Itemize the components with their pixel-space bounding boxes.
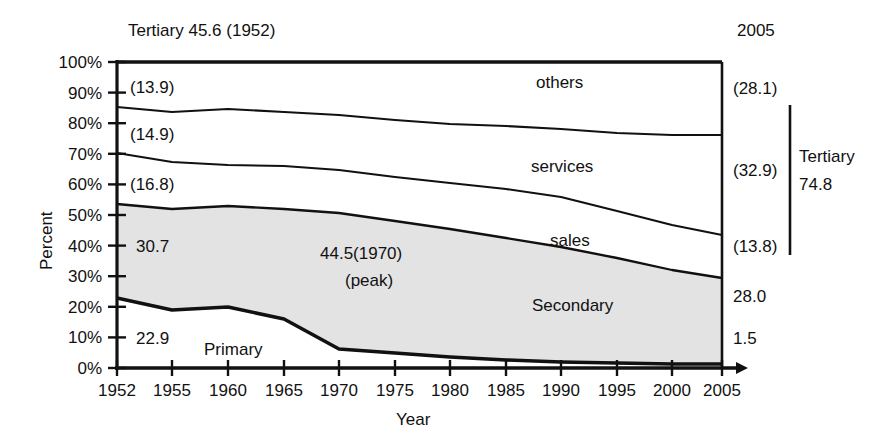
tertiary-bracket-label-name: Tertiary bbox=[799, 148, 855, 165]
y-tick-label-10: 10% bbox=[44, 329, 102, 346]
y-tick-label-70: 70% bbox=[44, 146, 102, 163]
chart-root: Tertiary 45.6 (1952) 2005 Percent Year 1… bbox=[0, 0, 890, 445]
right-value-sales: (13.8) bbox=[733, 238, 777, 255]
right-value-services: (32.9) bbox=[733, 162, 777, 179]
peak-label-line1: 44.5(1970) bbox=[320, 245, 402, 262]
right-value-others: (28.1) bbox=[733, 80, 777, 97]
peak-label-line2: (peak) bbox=[345, 272, 393, 289]
x-axis-title: Year bbox=[396, 411, 430, 428]
x-tick-label-2005: 2005 bbox=[694, 382, 750, 399]
others-services-boundary bbox=[117, 107, 722, 135]
x-tick-label-1980: 1980 bbox=[422, 382, 478, 399]
series-label-services: services bbox=[531, 158, 593, 175]
stacked-area-chart bbox=[0, 0, 890, 445]
left-value-primary: 22.9 bbox=[136, 330, 169, 347]
y-tick-label-90: 90% bbox=[44, 85, 102, 102]
y-tick-label-100: 100% bbox=[44, 54, 102, 71]
y-tick-label-40: 40% bbox=[44, 238, 102, 255]
y-tick-label-0: 0% bbox=[44, 360, 102, 377]
right-value-secondary: 28.0 bbox=[733, 288, 766, 305]
left-value-sales: (16.8) bbox=[130, 176, 174, 193]
x-tick-label-1975: 1975 bbox=[367, 382, 423, 399]
y-tick-label-60: 60% bbox=[44, 176, 102, 193]
x-tick-label-1985: 1985 bbox=[478, 382, 534, 399]
y-tick-label-80: 80% bbox=[44, 115, 102, 132]
top-note: Tertiary 45.6 (1952) bbox=[128, 22, 275, 39]
y-tick-label-20: 20% bbox=[44, 299, 102, 316]
series-label-primary: Primary bbox=[204, 341, 263, 358]
right-value-primary: 1.5 bbox=[733, 330, 757, 347]
series-label-others: others bbox=[536, 74, 583, 91]
y-tick-label-50: 50% bbox=[44, 207, 102, 224]
x-tick-label-1965: 1965 bbox=[256, 382, 312, 399]
y-tick-label-30: 30% bbox=[44, 268, 102, 285]
x-tick-label-1952: 1952 bbox=[89, 382, 145, 399]
tertiary-bracket-label-value: 74.8 bbox=[799, 176, 832, 193]
x-tick-label-1970: 1970 bbox=[311, 382, 367, 399]
series-label-secondary: Secondary bbox=[532, 297, 613, 314]
series-label-sales: sales bbox=[550, 232, 590, 249]
x-tick-label-1990: 1990 bbox=[533, 382, 589, 399]
x-tick-label-1995: 1995 bbox=[589, 382, 645, 399]
x-tick-label-1960: 1960 bbox=[200, 382, 256, 399]
left-value-others: (13.9) bbox=[130, 79, 174, 96]
x-axis-arrow bbox=[736, 362, 748, 374]
x-tick-label-1955: 1955 bbox=[144, 382, 200, 399]
left-value-services: (14.9) bbox=[130, 126, 174, 143]
x-tick-label-2000: 2000 bbox=[644, 382, 700, 399]
right-year-label: 2005 bbox=[737, 22, 775, 39]
left-value-secondary: 30.7 bbox=[136, 238, 169, 255]
